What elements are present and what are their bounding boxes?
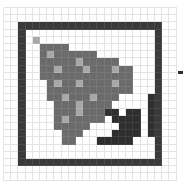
pixel-cell[interactable] — [40, 123, 47, 130]
pixel-cell[interactable] — [162, 94, 169, 101]
pixel-cell[interactable] — [11, 173, 18, 180]
pixel-cell[interactable] — [47, 58, 54, 65]
pixel-cell[interactable] — [148, 173, 155, 180]
pixel-cell[interactable] — [47, 94, 54, 101]
pixel-cell[interactable] — [90, 109, 97, 116]
pixel-cell[interactable] — [47, 116, 54, 123]
pixel-cell[interactable] — [83, 159, 90, 166]
pixel-cell[interactable] — [90, 51, 97, 58]
pixel-cell[interactable] — [18, 51, 25, 58]
pixel-cell[interactable] — [126, 22, 133, 29]
pixel-cell[interactable] — [4, 166, 11, 173]
pixel-cell[interactable] — [133, 101, 140, 108]
pixel-cell[interactable] — [141, 94, 148, 101]
pixel-cell[interactable] — [162, 173, 169, 180]
pixel-cell[interactable] — [26, 8, 33, 15]
pixel-cell[interactable] — [69, 8, 76, 15]
pixel-cell[interactable] — [141, 137, 148, 144]
pixel-cell[interactable] — [11, 101, 18, 108]
pixel-cell[interactable] — [119, 37, 126, 44]
pixel-cell[interactable] — [11, 37, 18, 44]
pixel-cell[interactable] — [83, 101, 90, 108]
pixel-cell[interactable] — [141, 166, 148, 173]
pixel-cell[interactable] — [76, 22, 83, 29]
pixel-cell[interactable] — [62, 87, 69, 94]
pixel-cell[interactable] — [18, 73, 25, 80]
pixel-cell[interactable] — [69, 44, 76, 51]
pixel-cell[interactable] — [112, 109, 119, 116]
pixel-cell[interactable] — [155, 173, 162, 180]
pixel-cell[interactable] — [162, 116, 169, 123]
pixel-cell[interactable] — [112, 159, 119, 166]
pixel-cell[interactable] — [33, 123, 40, 130]
pixel-cell[interactable] — [90, 116, 97, 123]
pixel-cell[interactable] — [62, 173, 69, 180]
pixel-cell[interactable] — [112, 15, 119, 22]
pixel-cell[interactable] — [97, 159, 104, 166]
pixel-cell[interactable] — [133, 66, 140, 73]
pixel-cell[interactable] — [54, 94, 61, 101]
pixel-cell[interactable] — [40, 80, 47, 87]
pixel-cell[interactable] — [126, 44, 133, 51]
pixel-cell[interactable] — [47, 73, 54, 80]
pixel-cell[interactable] — [169, 44, 176, 51]
pixel-cell[interactable] — [69, 58, 76, 65]
pixel-cell[interactable] — [76, 51, 83, 58]
pixel-cell[interactable] — [83, 80, 90, 87]
pixel-cell[interactable] — [119, 73, 126, 80]
pixel-cell[interactable] — [119, 80, 126, 87]
pixel-cell[interactable] — [155, 152, 162, 159]
pixel-cell[interactable] — [112, 101, 119, 108]
pixel-cell[interactable] — [90, 173, 97, 180]
pixel-cell[interactable] — [4, 51, 11, 58]
pixel-cell[interactable] — [112, 87, 119, 94]
pixel-cell[interactable] — [40, 8, 47, 15]
pixel-cell[interactable] — [11, 44, 18, 51]
pixel-cell[interactable] — [76, 109, 83, 116]
pixel-cell[interactable] — [33, 8, 40, 15]
pixel-cell[interactable] — [119, 109, 126, 116]
pixel-cell[interactable] — [76, 116, 83, 123]
pixel-cell[interactable] — [112, 123, 119, 130]
pixel-cell[interactable] — [62, 130, 69, 137]
pixel-cell[interactable] — [162, 123, 169, 130]
pixel-cell[interactable] — [126, 159, 133, 166]
pixel-cell[interactable] — [76, 137, 83, 144]
pixel-cell[interactable] — [83, 51, 90, 58]
pixel-cell[interactable] — [162, 73, 169, 80]
pixel-cell[interactable] — [148, 80, 155, 87]
pixel-cell[interactable] — [26, 137, 33, 144]
pixel-cell[interactable] — [119, 44, 126, 51]
pixel-cell[interactable] — [33, 22, 40, 29]
pixel-cell[interactable] — [105, 116, 112, 123]
pixel-cell[interactable] — [33, 87, 40, 94]
pixel-cell[interactable] — [155, 73, 162, 80]
pixel-cell[interactable] — [126, 173, 133, 180]
pixel-cell[interactable] — [4, 137, 11, 144]
pixel-cell[interactable] — [11, 145, 18, 152]
pixel-cell[interactable] — [83, 15, 90, 22]
pixel-cell[interactable] — [148, 8, 155, 15]
pixel-cell[interactable] — [18, 58, 25, 65]
pixel-cell[interactable] — [26, 66, 33, 73]
pixel-cell[interactable] — [141, 123, 148, 130]
pixel-cell[interactable] — [133, 173, 140, 180]
pixel-cell[interactable] — [119, 30, 126, 37]
pixel-cell[interactable] — [18, 30, 25, 37]
pixel-cell[interactable] — [97, 30, 104, 37]
pixel-cell[interactable] — [26, 87, 33, 94]
pixel-cell[interactable] — [105, 30, 112, 37]
pixel-cell[interactable] — [40, 58, 47, 65]
pixel-cell[interactable] — [40, 173, 47, 180]
pixel-cell[interactable] — [105, 109, 112, 116]
pixel-cell[interactable] — [62, 73, 69, 80]
pixel-cell[interactable] — [76, 130, 83, 137]
pixel-cell[interactable] — [62, 123, 69, 130]
pixel-cell[interactable] — [169, 30, 176, 37]
pixel-cell[interactable] — [119, 66, 126, 73]
pixel-cell[interactable] — [112, 66, 119, 73]
pixel-cell[interactable] — [33, 58, 40, 65]
pixel-cell[interactable] — [26, 101, 33, 108]
pixel-cell[interactable] — [141, 109, 148, 116]
pixel-cell[interactable] — [126, 51, 133, 58]
